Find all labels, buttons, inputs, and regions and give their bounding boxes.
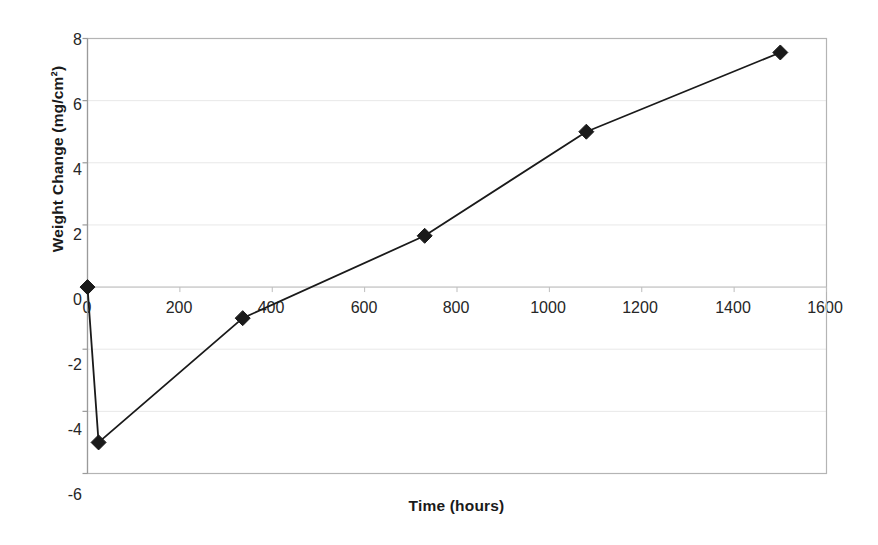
data-point-marker	[773, 45, 788, 60]
data-point-marker	[80, 280, 95, 295]
plot-border	[83, 39, 827, 474]
data-point-marker	[579, 124, 594, 139]
data-series-line	[88, 52, 781, 442]
plot-area	[0, 0, 878, 545]
plot-frame-rect	[88, 39, 827, 474]
gridlines	[88, 101, 827, 412]
chart-figure: Weight Change (mg/cm²) 8 6 4 2 0 -2 -4 -…	[0, 0, 878, 545]
series-line	[88, 52, 781, 442]
data-markers	[80, 45, 788, 450]
data-point-marker	[417, 228, 432, 243]
